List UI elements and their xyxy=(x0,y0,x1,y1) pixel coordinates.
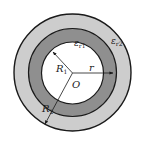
dielectric-layers-diagram: εr1 εr2 R1 O r R2 xyxy=(0,0,143,147)
label-O: O xyxy=(72,79,80,90)
